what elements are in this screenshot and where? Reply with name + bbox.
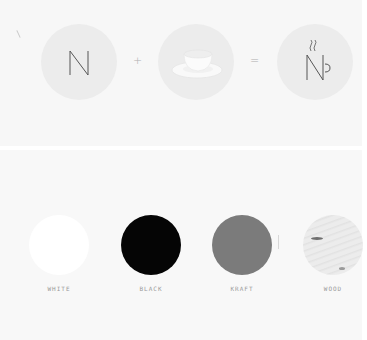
plus-operator: + xyxy=(133,54,142,67)
swatch-kraft xyxy=(212,215,272,275)
swatch-black xyxy=(121,215,181,275)
divider-tick xyxy=(278,235,279,249)
swatch-label-wood: WOOD xyxy=(303,285,363,292)
n-cup-logo-icon xyxy=(277,24,353,100)
swatch-label-kraft: KRAFT xyxy=(212,285,272,292)
wood-knot xyxy=(311,237,323,240)
cup-and-saucer-icon xyxy=(158,24,234,100)
swatch-label-black: BLACK xyxy=(121,285,181,292)
letter-n-circle xyxy=(41,24,117,100)
letter-n-icon xyxy=(41,24,117,100)
cup-circle xyxy=(158,24,234,100)
wood-knot xyxy=(339,267,345,270)
equals-operator: = xyxy=(250,54,259,67)
swatch-label-white: WHITE xyxy=(29,285,89,292)
n-cup-logo-circle xyxy=(277,24,353,100)
swatch-wood xyxy=(303,215,363,275)
swatch-white xyxy=(29,215,89,275)
